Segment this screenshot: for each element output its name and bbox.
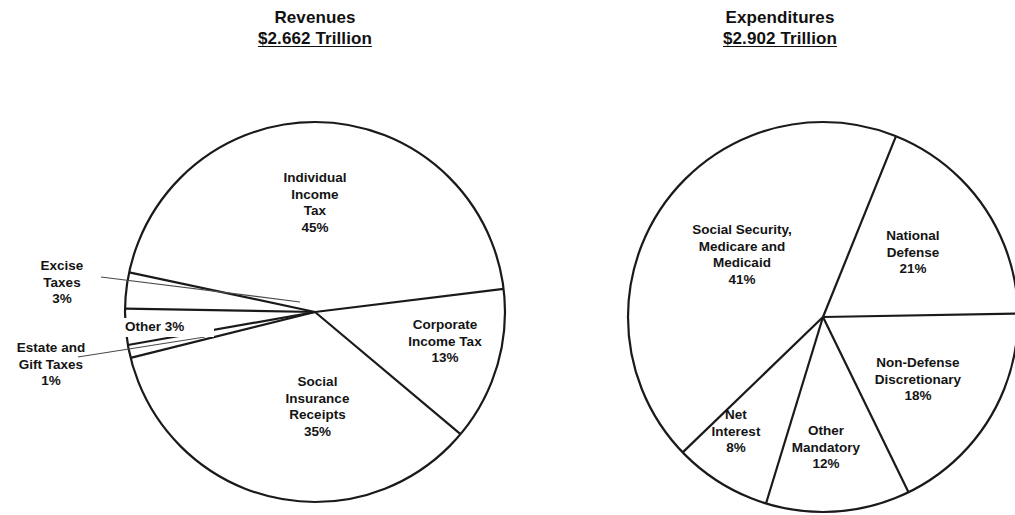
- expenditures-pie-chart-panel: Expenditures $2.902 Trillion Social Secu…: [520, 0, 1015, 515]
- slice-label-social-security-medicare-medicaid: Social Security, Medicare and Medicaid 4…: [657, 222, 827, 288]
- slice-label-excise-taxes: Excise Taxes 3%: [22, 258, 102, 308]
- revenues-slice-boundary-5: [125, 309, 315, 312]
- slice-label-individual-income-tax: Individual Income Tax 45%: [245, 170, 385, 236]
- slice-label-net-interest: Net Interest 8%: [694, 407, 778, 457]
- slice-label-national-defense: National Defense 21%: [858, 228, 968, 278]
- slice-label-corporate-income-tax: Corporate Income Tax 13%: [385, 317, 505, 367]
- expenditures-slice-boundary-2: [823, 314, 1015, 317]
- budget-pie-charts-figure: Revenues $2.662 Trillion Indiv: [0, 0, 1015, 515]
- expenditures-slice-boundary-1: [823, 136, 896, 317]
- excise-taxes-leader-line: [101, 277, 300, 302]
- slice-label-non-defense-discretionary: Non-Defense Discretionary 18%: [850, 355, 986, 405]
- slice-label-other-mandatory: Other Mandatory 12%: [773, 423, 879, 473]
- slice-label-estate-and-gift-taxes: Estate and Gift Taxes 1%: [2, 340, 100, 390]
- slice-label-social-insurance-receipts: Social Insurance Receipts 35%: [245, 374, 390, 440]
- slice-label-other: Other 3%: [122, 318, 214, 337]
- revenues-slice-boundary-1: [315, 289, 504, 312]
- revenues-pie-chart-panel: Revenues $2.662 Trillion Indiv: [0, 0, 520, 515]
